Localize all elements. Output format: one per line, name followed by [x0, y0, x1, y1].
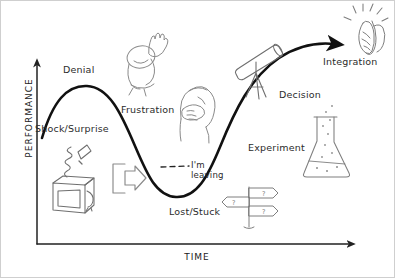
stage-label-experiment: Experiment — [248, 143, 305, 153]
telescope-icon — [235, 43, 284, 99]
stage-label-lost-stuck: Lost/Stuck — [169, 207, 220, 217]
flask-icon — [303, 105, 349, 177]
jack-in-the-box-icon — [53, 145, 94, 213]
clapping-hands-icon — [344, 4, 388, 55]
signpost-question-icon: ? ? ? — [222, 187, 278, 229]
annotation-im-leaving: I'm leaving — [191, 161, 224, 181]
x-axis-label: TIME — [151, 253, 243, 263]
stage-label-decision: Decision — [279, 90, 321, 100]
facepalm-figure-icon — [125, 33, 168, 96]
svg-text:?: ? — [232, 199, 235, 207]
svg-text:?: ? — [262, 190, 265, 198]
stage-label-shock-surprise: Shock/Surprise — [35, 124, 109, 134]
stage-label-integration: Integration — [323, 57, 378, 67]
y-axis-label: PERFORMANCE — [25, 75, 35, 161]
exit-door-arrow-icon — [113, 164, 146, 193]
change-curve-figure: ? ? ? — [1, 1, 395, 278]
stage-label-frustration: Frustration — [121, 105, 175, 115]
leaving-leader-line — [161, 166, 189, 167]
face-hand-icon — [180, 87, 215, 143]
svg-text:?: ? — [262, 208, 265, 216]
stage-label-denial: Denial — [63, 65, 94, 75]
figure-frame: ? ? ? — [0, 0, 395, 278]
